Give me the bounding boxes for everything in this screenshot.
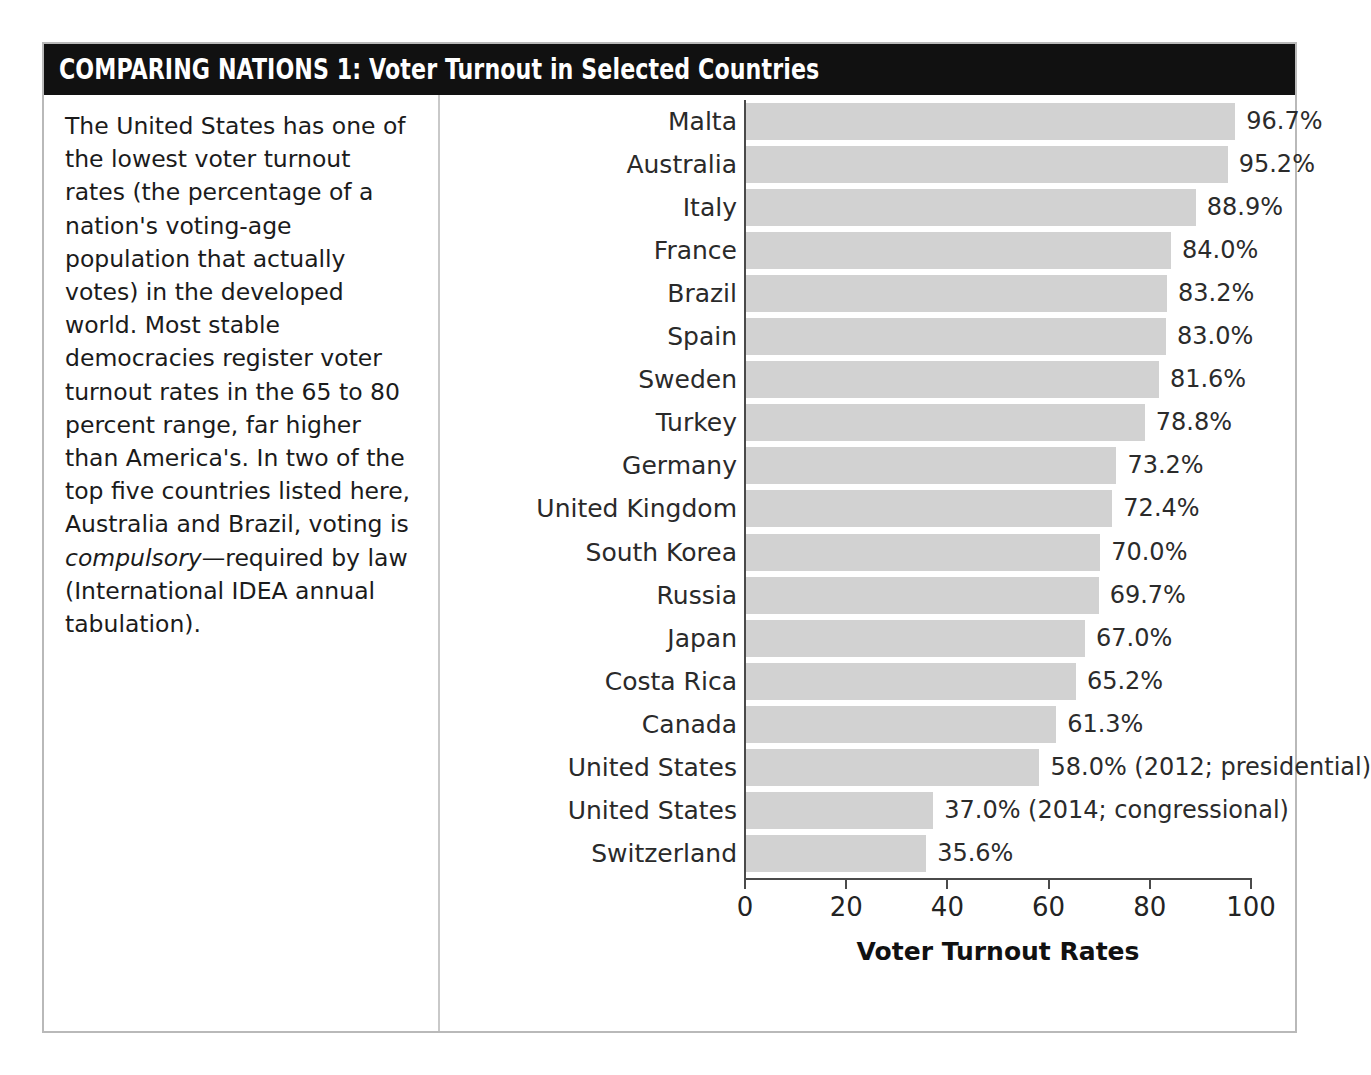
bar-value-label: 58.0% (2012; presidential) (1050, 746, 1371, 789)
bar-value-label: 78.8% (1156, 401, 1232, 444)
bar-row: United States37.0% (2014; congressional) (442, 789, 1295, 832)
paragraph-part-one: The United States has one of the lowest … (65, 112, 410, 538)
bar (746, 577, 1099, 614)
bar-category-label: Australia (442, 143, 737, 186)
bar-category-label: Brazil (442, 272, 737, 315)
bar-value-label: 83.0% (1177, 315, 1253, 358)
bar-value-label: 83.2% (1178, 272, 1254, 315)
x-axis-tick-label: 40 (907, 892, 987, 922)
bar-category-label: South Korea (442, 531, 737, 574)
bar-row: Malta96.7% (442, 100, 1295, 143)
bar-value-label: 65.2% (1087, 660, 1163, 703)
bar-category-label: United States (442, 789, 737, 832)
bar-row: Switzerland35.6% (442, 832, 1295, 875)
bar-row: Germany73.2% (442, 444, 1295, 487)
bar (746, 318, 1166, 355)
x-axis-tick (744, 880, 746, 889)
x-axis-tick (1250, 880, 1252, 889)
bar (746, 103, 1235, 140)
x-axis-tick-label: 80 (1110, 892, 1190, 922)
bar-category-label: United Kingdom (442, 487, 737, 530)
bar-row: Japan67.0% (442, 617, 1295, 660)
bar (746, 749, 1039, 786)
bar-category-label: Japan (442, 617, 737, 660)
y-axis-line (744, 100, 746, 878)
bar-value-label: 81.6% (1170, 358, 1246, 401)
bar-category-label: Sweden (442, 358, 737, 401)
bar-row: Brazil83.2% (442, 272, 1295, 315)
bar-category-label: Canada (442, 703, 737, 746)
bar (746, 534, 1100, 571)
bar-value-label: 35.6% (937, 832, 1013, 875)
bar-value-label: 96.7% (1246, 100, 1322, 143)
bar-category-label: Turkey (442, 401, 737, 444)
bar (746, 835, 926, 872)
bar-value-label: 73.2% (1127, 444, 1203, 487)
explanatory-paragraph: The United States has one of the lowest … (65, 110, 412, 641)
x-axis-tick (1149, 880, 1151, 889)
x-axis-tick (946, 880, 948, 889)
emphasized-term: compulsory (65, 544, 202, 572)
bar-row: Spain83.0% (442, 315, 1295, 358)
bar-row: France84.0% (442, 229, 1295, 272)
bar (746, 706, 1056, 743)
bar (746, 663, 1076, 700)
bar-row: Russia69.7% (442, 574, 1295, 617)
bar-row: United States58.0% (2012; presidential) (442, 746, 1295, 789)
bar-value-label: 95.2% (1239, 143, 1315, 186)
figure-title-prefix: COMPARING NATIONS 1: (59, 53, 361, 86)
explanatory-text-column: The United States has one of the lowest … (44, 95, 440, 1031)
bar (746, 275, 1167, 312)
bar-value-label: 88.9% (1207, 186, 1283, 229)
x-axis-tick-label: 60 (1009, 892, 1089, 922)
bar-row: Turkey78.8% (442, 401, 1295, 444)
bar (746, 189, 1196, 226)
bar-category-label: United States (442, 746, 737, 789)
bar-value-label: 37.0% (2014; congressional) (944, 789, 1289, 832)
x-axis-title: Voter Turnout Rates (744, 937, 1252, 966)
bar-value-label: 84.0% (1182, 229, 1258, 272)
bar-category-label: Malta (442, 100, 737, 143)
bar-row: Italy88.9% (442, 186, 1295, 229)
bar-row: South Korea70.0% (442, 531, 1295, 574)
bar (746, 361, 1159, 398)
bar-value-label: 67.0% (1096, 617, 1172, 660)
bar-row: United Kingdom72.4% (442, 487, 1295, 530)
bar-chart: Malta96.7%Australia95.2%Italy88.9%France… (442, 95, 1295, 1031)
bar (746, 232, 1171, 269)
bar (746, 146, 1228, 183)
bar-category-label: Switzerland (442, 832, 737, 875)
x-axis-tick (845, 880, 847, 889)
bar-value-label: 70.0% (1111, 531, 1187, 574)
bar-row: Costa Rica65.2% (442, 660, 1295, 703)
bar-category-label: Italy (442, 186, 737, 229)
bar-row: Sweden81.6% (442, 358, 1295, 401)
figure-title: COMPARING NATIONS 1: Voter Turnout in Se… (44, 53, 819, 86)
bar-category-label: Spain (442, 315, 737, 358)
figure-title-suffix: Voter Turnout in Selected Countries (361, 53, 819, 86)
x-axis-tick (1048, 880, 1050, 889)
bar-category-label: Germany (442, 444, 737, 487)
figure-body: The United States has one of the lowest … (44, 95, 1295, 1031)
bar-value-label: 72.4% (1123, 487, 1199, 530)
bar (746, 792, 933, 829)
bar (746, 447, 1116, 484)
bar (746, 404, 1145, 441)
bar-category-label: Russia (442, 574, 737, 617)
bar (746, 620, 1085, 657)
x-axis-tick-label: 0 (705, 892, 785, 922)
figure-title-bar: COMPARING NATIONS 1: Voter Turnout in Se… (44, 44, 1295, 95)
bar-row: Canada61.3% (442, 703, 1295, 746)
x-axis-tick-label: 20 (806, 892, 886, 922)
x-axis-line (744, 878, 1252, 880)
bar-value-label: 61.3% (1067, 703, 1143, 746)
bar (746, 490, 1112, 527)
bar-category-label: Costa Rica (442, 660, 737, 703)
figure-frame: COMPARING NATIONS 1: Voter Turnout in Se… (42, 42, 1297, 1033)
x-axis-tick-label: 100 (1211, 892, 1291, 922)
bar-row: Australia95.2% (442, 143, 1295, 186)
bar-category-label: France (442, 229, 737, 272)
bar-value-label: 69.7% (1110, 574, 1186, 617)
